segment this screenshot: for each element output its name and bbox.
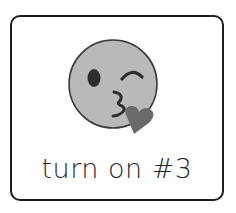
card-label: turn on #3 xyxy=(12,155,222,182)
face-blowing-a-kiss-icon xyxy=(66,36,176,146)
turn-on-3-card[interactable]: turn on #3 xyxy=(10,15,224,201)
